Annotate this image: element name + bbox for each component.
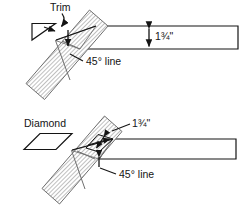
dimension-label-top: 1¾" (155, 30, 174, 42)
trim-shape-icon (32, 24, 56, 41)
angle-label-top: 45° line (86, 55, 121, 67)
dimension-label-bottom: 1¾" (132, 117, 151, 129)
diagonal-board-bottom (42, 116, 122, 204)
horizontal-board-bottom (99, 139, 236, 159)
figure-root: Trim 1¾" 45° line (0, 0, 242, 208)
miter-trim-diagram: Trim 1¾" 45° line (0, 0, 242, 208)
panel-top: Trim 1¾" 45° line (26, 1, 238, 99)
diamond-label: Diamond (24, 117, 66, 129)
trim-leader-arrow (62, 14, 65, 27)
angle-label-bottom: 45° line (119, 168, 154, 180)
trim-label: Trim (50, 1, 71, 13)
diamond-shape-icon (24, 134, 72, 150)
panel-bottom: Diamond 1¾" 45° line (24, 116, 236, 204)
